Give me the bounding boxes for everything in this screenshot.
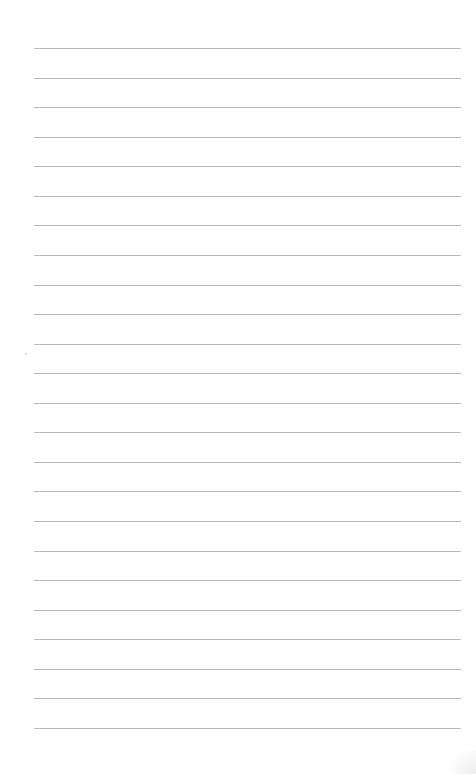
ruled-line [34,580,461,581]
ruled-line [34,285,461,286]
ruled-line [34,698,461,699]
ruled-line [34,166,461,167]
ruled-line [34,196,461,197]
ruled-line [34,610,461,611]
ruled-line [34,669,461,670]
ruled-line [34,521,461,522]
ruled-line [34,107,461,108]
ruled-line [34,344,461,345]
ruled-line [34,255,461,256]
ruled-line [34,314,461,315]
ruled-line [34,491,461,492]
ruled-line [34,728,461,729]
ruled-line [34,432,461,433]
ruled-line [34,403,461,404]
ruled-line [34,225,461,226]
ruled-line [34,137,461,138]
page-corner-shadow [446,750,476,774]
lined-page [0,0,476,774]
paper-speck [25,353,27,355]
ruled-line [34,639,461,640]
ruled-line [34,551,461,552]
ruled-line [34,78,461,79]
ruled-line [34,48,461,49]
ruled-line [34,373,461,374]
ruled-line [34,462,461,463]
